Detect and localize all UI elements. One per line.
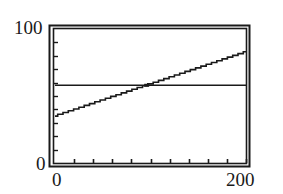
outer-frame (50, 26, 250, 167)
inner-frame (54, 29, 247, 164)
x-axis-max-label: 200 (226, 170, 255, 189)
y-axis-min-label: 0 (36, 154, 46, 173)
sloped-line (55, 52, 246, 116)
y-axis-max-label: 100 (14, 18, 43, 37)
x-axis-min-label: 0 (52, 170, 62, 189)
graphing-calculator-chart: 100 0 0 200 (0, 0, 283, 194)
intersection-point (144, 84, 149, 87)
